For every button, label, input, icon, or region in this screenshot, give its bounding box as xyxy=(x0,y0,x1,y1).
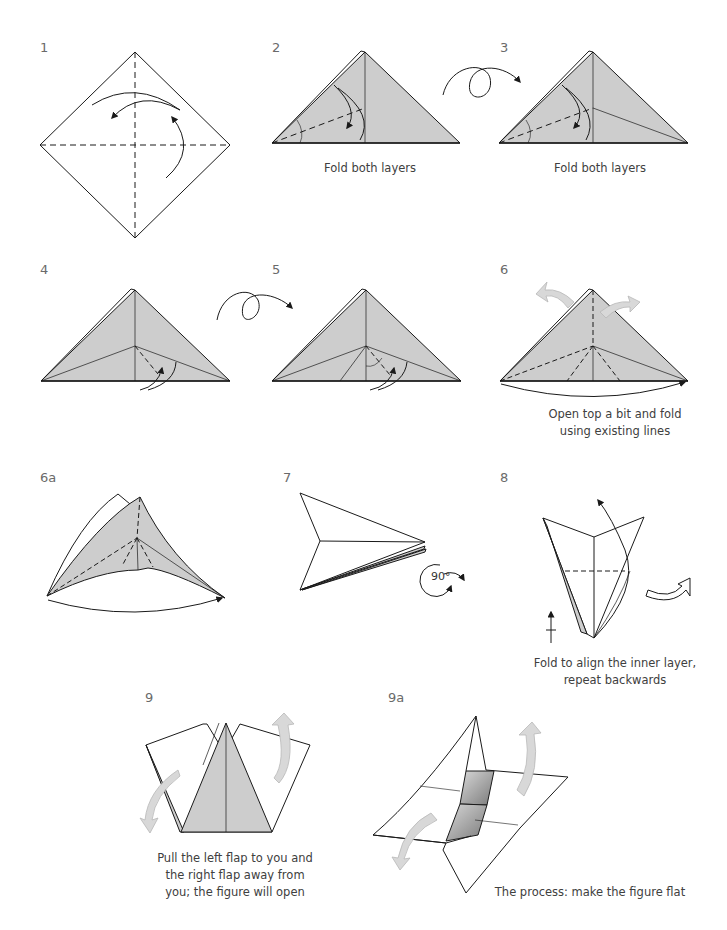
origami-diagrams: 90° xyxy=(0,0,727,930)
diagram-step-6a xyxy=(47,494,225,612)
spread-arrow-icon xyxy=(501,382,685,397)
hollow-arrow-icon xyxy=(536,282,574,308)
diagram-step-1 xyxy=(40,52,230,238)
diagram-step-9 xyxy=(140,713,310,833)
turn-over-arrow-icon xyxy=(443,68,520,97)
diagram-step-4 xyxy=(41,289,230,390)
turn-over-hollow-arrow-icon xyxy=(646,578,690,600)
diagram-step-3 xyxy=(499,51,688,143)
diagram-step-9a xyxy=(373,716,568,893)
rotate-label: 90° xyxy=(431,570,451,583)
diagram-step-2 xyxy=(272,51,460,143)
diagram-step-8 xyxy=(543,500,690,643)
spread-arrow-icon xyxy=(48,598,222,612)
turn-over-arrow-icon xyxy=(217,292,292,320)
diagram-step-7: 90° xyxy=(300,493,464,596)
diagram-step-6 xyxy=(500,282,688,397)
diagram-step-5 xyxy=(272,289,461,390)
